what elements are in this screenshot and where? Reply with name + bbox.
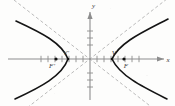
y-axis-arrowhead <box>87 12 92 19</box>
focus-left-label: F' <box>48 62 55 70</box>
hyperbola-left-branch <box>15 21 68 99</box>
y-axis-label: y <box>91 2 96 10</box>
focus-left-dot <box>54 57 57 60</box>
x-axis-group <box>8 56 164 62</box>
focus-right-dot <box>122 57 125 60</box>
vertex-left-dot <box>67 58 70 61</box>
x-axis-arrowhead <box>157 56 164 61</box>
focus-right-label: F <box>123 62 129 70</box>
vertex-left-label: V' <box>63 49 69 57</box>
hyperbola-figure: x y V F V' F' <box>0 0 175 106</box>
figure-canvas: x y V F V' F' <box>0 0 175 106</box>
y-axis-group <box>87 12 93 100</box>
x-axis-label: x <box>165 56 170 64</box>
vertex-right-label: V <box>112 49 117 57</box>
figure-labels: x y V F V' F' <box>48 2 170 70</box>
vertex-right-dot <box>111 58 114 61</box>
